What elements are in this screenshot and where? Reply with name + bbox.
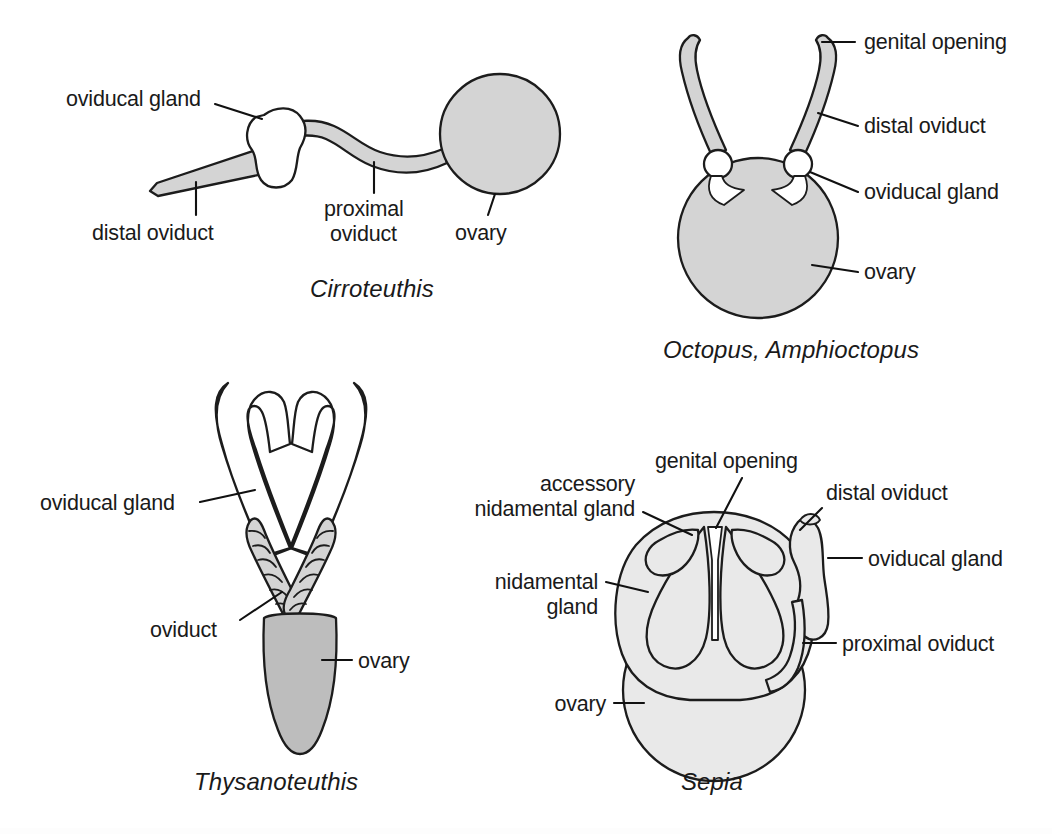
label-octopus-oviducal-gland: oviducal gland [864, 180, 999, 204]
caption-sepia: Sepia [681, 768, 743, 795]
leader-thysanoteuthis-oviducal-gland [200, 490, 255, 502]
label-sepia-accessory-nidamental-gland-line2: nidamental gland [474, 497, 635, 521]
label-sepia-proximal-oviduct: proximal oviduct [842, 632, 994, 656]
label-sepia-accessory-nidamental-gland-line1: accessory [540, 472, 635, 496]
label-octopus-genital-opening: genital opening [864, 30, 1007, 54]
leader-cirroteuthis-oviducal-gland [215, 104, 262, 119]
leader-cirroteuthis-ovary [488, 194, 495, 215]
octopus-right-oviducal-gland-shape [784, 150, 812, 178]
label-thysanoteuthis-ovary: ovary [358, 649, 410, 673]
label-thysanoteuthis-oviducal-gland: oviducal gland [40, 491, 175, 515]
label-cirroteuthis-distal-oviduct: distal oviduct [92, 221, 214, 245]
leader-octopus-distal-oviduct [818, 113, 858, 126]
panel-thysanoteuthis: oviducal gland oviduct ovary Thysanoteut… [40, 383, 410, 795]
cirroteuthis-ovary-shape [440, 74, 560, 194]
label-octopus-ovary: ovary [864, 260, 916, 284]
label-cirroteuthis-proximal-oviduct-line1: proximal [324, 197, 404, 221]
thysanoteuthis-ovary-shape [264, 614, 337, 755]
octopus-ovary-shape [678, 158, 838, 318]
octopus-left-distal-oviduct-shape [680, 35, 726, 156]
caption-cirroteuthis: Cirroteuthis [310, 275, 434, 302]
anatomy-figure-canvas: oviducal gland distal oviduct proximal o… [0, 0, 1052, 834]
figure-root: oviducal gland distal oviduct proximal o… [0, 0, 1052, 834]
label-thysanoteuthis-oviduct: oviduct [150, 618, 217, 642]
label-sepia-genital-opening: genital opening [655, 449, 798, 473]
label-cirroteuthis-oviducal-gland: oviducal gland [66, 87, 201, 111]
label-sepia-nidamental-gland-line1: nidamental [495, 570, 598, 594]
label-sepia-oviducal-gland: oviducal gland [868, 547, 1003, 571]
label-sepia-nidamental-gland-line2: gland [546, 595, 598, 619]
label-sepia-distal-oviduct: distal oviduct [826, 481, 948, 505]
caption-thysanoteuthis: Thysanoteuthis [194, 768, 358, 795]
cirroteuthis-distal-oviduct-shape [150, 148, 268, 196]
caption-octopus: Octopus, Amphioctopus [663, 336, 919, 363]
panel-sepia: accessory nidamental gland genital openi… [474, 449, 1002, 795]
label-cirroteuthis-ovary: ovary [455, 221, 507, 245]
scan-edge-artifact [0, 828, 1052, 834]
octopus-left-oviducal-gland-shape [704, 150, 732, 178]
label-cirroteuthis-proximal-oviduct-line2: oviduct [330, 222, 397, 246]
label-sepia-ovary: ovary [554, 692, 606, 716]
octopus-right-distal-oviduct-shape [790, 35, 836, 156]
panel-cirroteuthis: oviducal gland distal oviduct proximal o… [66, 74, 560, 302]
label-octopus-distal-oviduct: distal oviduct [864, 114, 986, 138]
thysanoteuthis-right-oviduct-shape [284, 518, 336, 619]
panel-octopus: genital opening distal oviduct oviducal … [663, 30, 1007, 363]
